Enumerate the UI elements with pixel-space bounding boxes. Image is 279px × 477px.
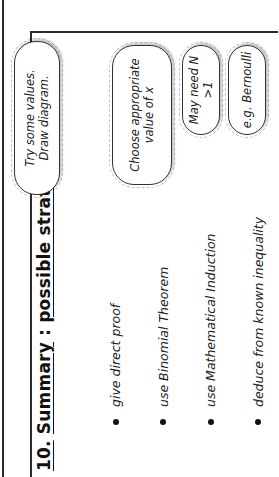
bullet-icon bbox=[160, 419, 166, 425]
list-item: give direct proof bbox=[92, 217, 140, 425]
callout-may-need-n: May need N >1 bbox=[182, 45, 220, 135]
callout-line: Try some values. bbox=[23, 69, 37, 166]
strategy-text: use Binomial Theorem bbox=[156, 267, 171, 407]
list-item: deduce from known inequality bbox=[235, 217, 279, 425]
list-item: use Mathematical Induction bbox=[187, 217, 235, 425]
callout-bernoulli: e.g. Bernoulli bbox=[228, 45, 266, 135]
callout-line: e.g. Bernoulli bbox=[240, 52, 254, 128]
title-separator: : bbox=[34, 323, 54, 342]
strategy-text: use Mathematical Induction bbox=[203, 233, 218, 407]
bullet-icon bbox=[113, 419, 119, 425]
bullet-icon bbox=[208, 419, 214, 425]
slide: 10. Summary : possible strategies give d… bbox=[0, 0, 278, 477]
strategy-text: deduce from known inequality bbox=[251, 217, 266, 407]
callout-choose-x: Choose appropriate value of x bbox=[112, 45, 172, 185]
callout-line: May need N >1 bbox=[187, 46, 215, 134]
title-word: Summary bbox=[34, 342, 54, 434]
bullet-icon bbox=[255, 419, 261, 425]
title-number: 10. bbox=[34, 440, 54, 471]
list-item: use Binomial Theorem bbox=[140, 217, 188, 425]
callout-try-values: Try some values. Draw diagram. bbox=[14, 41, 60, 195]
callout-line: Draw diagram. bbox=[37, 75, 51, 160]
callout-line: value of x bbox=[142, 87, 156, 144]
outer-border-line bbox=[2, 0, 4, 477]
callout-line: Choose appropriate bbox=[128, 58, 142, 171]
frame-side-line bbox=[30, 31, 278, 33]
strategy-list: give direct proof use Binomial Theorem u… bbox=[92, 217, 278, 425]
strategy-text: give direct proof bbox=[108, 304, 123, 407]
